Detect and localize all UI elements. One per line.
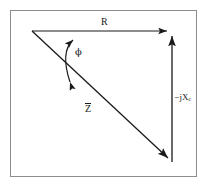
label-resistance-r: R: [101, 17, 108, 27]
label-reactance-minus-jxc: −jXc: [174, 93, 191, 102]
impedance-phasor-figure: R ϕ Z −jXc: [0, 0, 209, 186]
label-phase-angle-phi: ϕ: [75, 47, 82, 57]
label-impedance-z: Z: [85, 103, 91, 115]
impedance-symbol-overbar: Z: [85, 103, 91, 115]
vector-impedance-z: [32, 31, 168, 158]
reactance-subscript-c: c: [189, 96, 192, 102]
angle-arc-phi: [66, 40, 73, 82]
